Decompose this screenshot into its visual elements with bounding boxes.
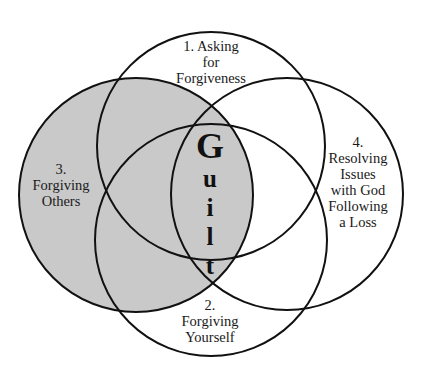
label-line: Forgiving bbox=[182, 313, 239, 329]
label-line: Issues bbox=[328, 166, 388, 182]
label-line: 2. bbox=[182, 297, 239, 313]
guilt-letter: u bbox=[196, 164, 224, 193]
label-line: Yourself bbox=[182, 329, 239, 345]
guilt-letter: t bbox=[196, 251, 224, 280]
label-line: 4. bbox=[328, 134, 388, 150]
label-line: Forgiveness bbox=[176, 70, 246, 86]
label-line: Others bbox=[33, 193, 90, 209]
label-line: Following bbox=[328, 198, 388, 214]
label-forgiving-others: 3. Forgiving Others bbox=[33, 161, 90, 209]
label-line: a Loss bbox=[328, 214, 388, 230]
label-line: Forgiving bbox=[33, 177, 90, 193]
guilt-letter: l bbox=[196, 222, 224, 251]
label-line: 1. Asking bbox=[176, 38, 246, 54]
label-line: with God bbox=[328, 182, 388, 198]
label-resolving-issues-with-god: 4. Resolving Issues with God Following a… bbox=[328, 134, 388, 230]
venn-diagram: 1. Asking for Forgiveness 3. Forgiving O… bbox=[0, 0, 423, 380]
label-asking-for-forgiveness: 1. Asking for Forgiveness bbox=[176, 38, 246, 86]
guilt-letter: G bbox=[196, 128, 224, 164]
center-label-guilt: G u i l t bbox=[196, 128, 224, 280]
label-forgiving-yourself: 2. Forgiving Yourself bbox=[182, 297, 239, 345]
label-line: for bbox=[176, 54, 246, 70]
label-line: Resolving bbox=[328, 150, 388, 166]
guilt-letter: i bbox=[196, 193, 224, 222]
label-line: 3. bbox=[33, 161, 90, 177]
